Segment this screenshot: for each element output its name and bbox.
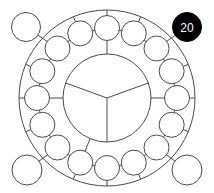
sector-divider-line [107,83,148,98]
ring-cell-12[interactable] [95,156,120,181]
ring-cell-6[interactable] [45,36,70,61]
ring-cell-7[interactable] [30,59,55,84]
ring-cell-4[interactable] [95,16,120,41]
ring-cell-10[interactable] [45,135,70,160]
ring-cell-15[interactable] [159,112,184,137]
corner-cell-circle[interactable] [173,13,202,42]
corner-cell-circle[interactable] [12,155,42,185]
ring-cell-5[interactable] [68,21,93,46]
ring-cell-13[interactable] [121,150,146,175]
corner-cell-circle[interactable] [172,155,202,185]
puzzle-board: 20 [0,0,214,193]
ring-cell-14[interactable] [144,135,169,160]
corner-cell-top-left[interactable] [12,13,41,42]
corner-cell-bottom-right[interactable] [172,155,202,185]
ring-cell-8[interactable] [25,86,50,111]
ring-cell-3[interactable] [121,21,146,46]
sector-divider-line [66,83,107,98]
ring-cell-11[interactable] [68,150,93,175]
ring-cell-0[interactable] [165,86,190,111]
ring-cell-9[interactable] [30,112,55,137]
corner-cell-top-right[interactable]: 20 [173,13,202,42]
ring-cell-1[interactable] [159,59,184,84]
corner-cell-bottom-left[interactable] [12,155,42,185]
ring-cell-2[interactable] [144,36,169,61]
corner-cell-circle[interactable] [12,13,41,42]
inner-sector-lines [66,83,149,142]
